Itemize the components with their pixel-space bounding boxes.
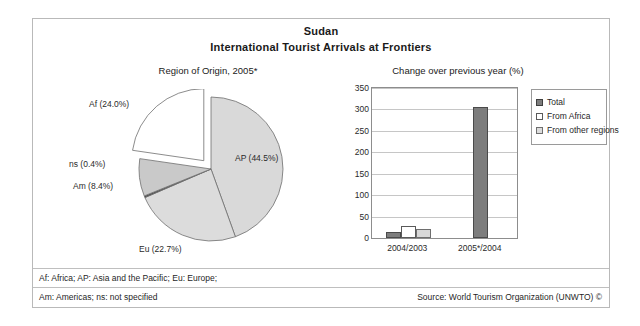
page-subtitle: International Tourist Arrivals at Fronti…	[33, 41, 609, 53]
page-title: Sudan	[33, 25, 609, 37]
bar-chart-title: Change over previous year (%)	[353, 65, 563, 76]
y-tick-200: 200	[325, 147, 369, 157]
gridline-350	[372, 88, 517, 89]
legend-item-total: Total	[536, 97, 602, 107]
gridline-200	[372, 152, 517, 153]
y-tick-250: 250	[325, 126, 369, 136]
footer-divider-top	[33, 268, 609, 269]
footer-divider-mid	[33, 287, 609, 288]
pie-label-eu: Eu (22.7%)	[139, 244, 182, 254]
legend-swatch-from-africa-icon	[536, 113, 543, 120]
pie-label-am: Am (8.4%)	[73, 181, 113, 191]
y-tick-50: 50	[325, 212, 369, 222]
chart-panel: Sudan International Tourist Arrivals at …	[32, 18, 610, 308]
pie-label-ap: AP (44.5%)	[235, 153, 278, 163]
legend-item-from-other-regions: From other regions	[536, 125, 602, 135]
bar-total-20052004	[473, 107, 488, 238]
pie-slice-eu	[133, 89, 204, 161]
footnote-line-2: Am: Americas; ns: not specified	[39, 292, 158, 302]
y-tick-300: 300	[325, 104, 369, 114]
pie-chart-svg	[131, 89, 291, 249]
chart-legend: Total From Africa From other regions	[531, 89, 607, 145]
footnote-line-1: Af: Africa; AP: Asia and the Pacific; Eu…	[39, 273, 217, 283]
legend-swatch-total-icon	[536, 99, 543, 106]
gridline-300	[372, 109, 517, 110]
bar-chart: 050100150200250300350 2004/20032005*/200…	[323, 81, 608, 266]
y-tick-150: 150	[325, 169, 369, 179]
legend-label-from-africa: From Africa	[547, 111, 590, 121]
gridline-150	[372, 174, 517, 175]
legend-item-from-africa: From Africa	[536, 111, 602, 121]
bar-from-other-regions-20042003	[416, 229, 431, 238]
gridline-250	[372, 131, 517, 132]
gridline-50	[372, 217, 517, 218]
pie-chart: AP (44.5%) Af (24.0%) ns (0.4%) Am (8.4%…	[91, 81, 331, 266]
legend-swatch-from-other-regions-icon	[536, 127, 543, 134]
gridline-100	[372, 195, 517, 196]
pie-label-af: Af (24.0%)	[89, 99, 129, 109]
bar-plot-area	[371, 87, 518, 239]
pie-label-ns: ns (0.4%)	[69, 159, 105, 169]
source-credit: Source: World Tourism Organization (UNWT…	[417, 292, 602, 302]
legend-label-from-other-regions: From other regions	[547, 125, 619, 135]
legend-label-total: Total	[547, 97, 565, 107]
y-tick-350: 350	[325, 83, 369, 93]
x-tick-20052004: 2005*/2004	[440, 243, 520, 253]
bar-total-20042003	[386, 232, 401, 238]
y-tick-100: 100	[325, 190, 369, 200]
x-tick-20042003: 2004/2003	[367, 243, 447, 253]
pie-chart-title: Region of Origin, 2005*	[93, 65, 323, 76]
y-tick-0: 0	[325, 233, 369, 243]
bar-from-africa-20042003	[401, 226, 416, 238]
y-axis-ticks: 050100150200250300350	[323, 87, 369, 239]
